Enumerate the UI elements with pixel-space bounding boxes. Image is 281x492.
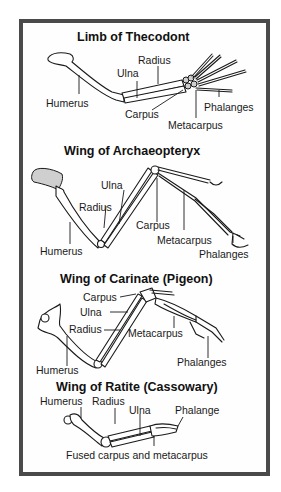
label-radius: Radius: [79, 201, 112, 213]
label-carpus: Carpus: [125, 108, 159, 120]
thecodont-forearm-bones: [122, 80, 186, 103]
section-thecodont: Limb of Thecodont Radius Ulna: [46, 30, 254, 131]
label-humerus: Humerus: [46, 97, 89, 109]
section-title: Wing of Ratite (Cassowary): [56, 380, 218, 394]
label-humerus: Humerus: [36, 364, 79, 376]
ratite-humerus-bone: [64, 414, 104, 446]
label-ulna: Ulna: [101, 179, 123, 191]
section-title: Wing of Archaeopteryx: [64, 144, 200, 158]
section-archaeopteryx: Wing of Archaeopteryx Ulna: [32, 144, 249, 260]
label-carpus: Carpus: [83, 291, 117, 303]
label-ulna: Ulna: [117, 67, 139, 79]
carinate-metacarpus-bones: [155, 298, 196, 322]
label-ulna: Ulna: [129, 404, 151, 416]
thecodont-digits: [192, 54, 246, 92]
label-humerus: Humerus: [40, 395, 83, 407]
label-ulna: Ulna: [80, 306, 102, 318]
label-phalanges: Phalanges: [204, 101, 254, 113]
label-metacarpus: Metacarpus: [168, 119, 223, 131]
section-ratite: Wing of Ratite (Cassowary) Humerus Radiu…: [40, 380, 220, 461]
label-metacarpus: Metacarpus: [128, 327, 183, 339]
label-phalange: Phalange: [175, 404, 220, 416]
ratite-forearm-bones: [108, 426, 154, 447]
label-radius: Radius: [138, 54, 171, 66]
section-carinate: Wing of Carinate (Pigeon): [36, 272, 227, 376]
limb-comparison-diagram: Limb of Thecodont Radius Ulna: [0, 0, 281, 492]
label-humerus: Humerus: [40, 245, 83, 257]
label-carpus: Carpus: [136, 219, 170, 231]
label-phalanges: Phalanges: [199, 248, 249, 260]
section-title: Limb of Thecodont: [77, 30, 190, 44]
ratite-carpometacarpus-bone: [150, 424, 178, 436]
section-title: Wing of Carinate (Pigeon): [60, 272, 213, 286]
label-metacarpus: Metacarpus: [157, 234, 212, 246]
thecodont-humerus-bone: [48, 53, 124, 102]
label-fused-carpus-metacarpus: Fused carpus and metacarpus: [66, 449, 208, 461]
label-radius: Radius: [92, 395, 125, 407]
label-radius: Radius: [69, 323, 102, 335]
label-phalanges: Phalanges: [177, 356, 227, 368]
